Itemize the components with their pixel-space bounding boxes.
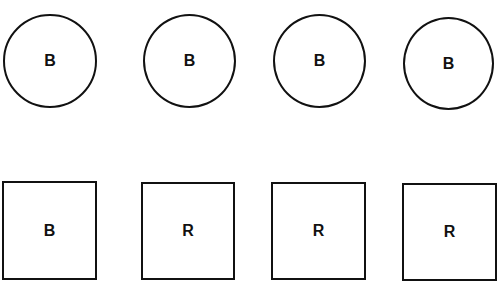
square-4-label: R xyxy=(444,224,456,240)
square-3: R xyxy=(271,182,366,280)
circle-4-label: B xyxy=(443,56,455,72)
circle-1: B xyxy=(3,14,97,108)
circle-3: B xyxy=(273,14,366,108)
square-1-label: B xyxy=(44,223,56,239)
square-3-label: R xyxy=(313,223,325,239)
circle-4: B xyxy=(403,17,494,110)
square-2-label: R xyxy=(182,223,194,239)
circle-3-label: B xyxy=(314,53,326,69)
circle-2: B xyxy=(143,14,236,108)
circle-2-label: B xyxy=(184,53,196,69)
square-4: R xyxy=(402,183,497,281)
square-1: B xyxy=(2,181,97,280)
circle-1-label: B xyxy=(44,53,56,69)
square-2: R xyxy=(141,182,235,280)
